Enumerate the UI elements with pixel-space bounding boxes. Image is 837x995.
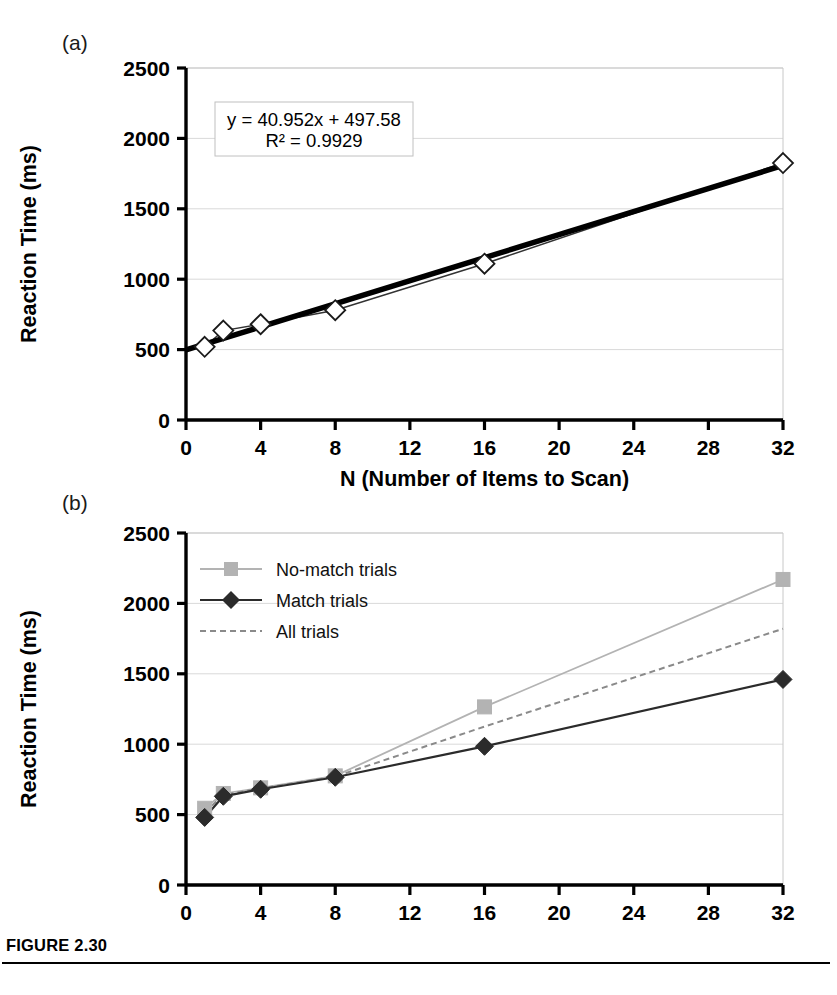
x-tick-label-12: 12: [398, 436, 421, 459]
data-point-marker-no-match: [776, 572, 790, 586]
series-line-match: [205, 679, 783, 817]
r-squared-text: R² = 0.9929: [265, 130, 362, 151]
legend-entry: No-match trials: [200, 560, 397, 580]
x-axis-title: N (Number of Items to Scan): [340, 932, 629, 935]
panel-a-label: (a): [62, 31, 88, 55]
y-axis-title: Reaction Time (ms): [17, 145, 41, 343]
x-tick-label-12: 12: [398, 901, 421, 924]
x-tick-label-4: 4: [255, 901, 267, 924]
figure-container: (a) 05001000150020002500048121620242832N…: [0, 0, 837, 995]
x-tick-label-20: 20: [547, 436, 570, 459]
equation-text: y = 40.952x + 497.58: [227, 109, 401, 130]
legend-label: All trials: [276, 622, 339, 642]
x-tick-label-32: 32: [771, 436, 794, 459]
y-tick-label-0: 0: [158, 874, 170, 897]
panel-b-plot: 05001000150020002500048121620242832N (Nu…: [0, 485, 837, 935]
data-point-marker-no-match: [478, 700, 492, 714]
figure-caption-label: FIGURE 2.30: [6, 936, 107, 955]
figure-caption: FIGURE 2.30: [0, 936, 837, 964]
y-tick-label-500: 500: [135, 803, 170, 826]
legend-label: No-match trials: [276, 560, 397, 580]
x-tick-label-0: 0: [180, 901, 192, 924]
y-tick-label-2000: 2000: [123, 127, 170, 150]
x-tick-label-8: 8: [329, 436, 341, 459]
data-point-marker-match: [774, 670, 792, 688]
y-axis-title: Reaction Time (ms): [17, 610, 41, 808]
x-tick-label-0: 0: [180, 436, 192, 459]
data-point-marker-match: [476, 737, 494, 755]
y-tick-label-2500: 2500: [123, 522, 170, 545]
y-tick-label-1500: 1500: [123, 662, 170, 685]
legend-entry: Match trials: [200, 591, 368, 611]
y-tick-label-0: 0: [158, 409, 170, 432]
legend-entry: All trials: [200, 622, 339, 642]
y-tick-label-1000: 1000: [123, 733, 170, 756]
x-tick-label-28: 28: [697, 436, 721, 459]
chart-panel-a: (a) 05001000150020002500048121620242832N…: [0, 0, 837, 493]
panel-b-label: (b): [62, 491, 88, 515]
legend-marker-diamond-icon: [222, 591, 240, 609]
caption-divider: [2, 962, 830, 964]
x-tick-label-28: 28: [697, 901, 721, 924]
panel-a-plot: 05001000150020002500048121620242832N (Nu…: [0, 0, 837, 493]
x-tick-label-24: 24: [622, 901, 646, 924]
legend-marker-square-icon: [224, 562, 238, 576]
x-tick-label-4: 4: [255, 436, 267, 459]
x-tick-label-16: 16: [473, 436, 496, 459]
chart-panel-b: (b) 05001000150020002500048121620242832N…: [0, 485, 837, 935]
x-tick-label-24: 24: [622, 436, 646, 459]
y-tick-label-2000: 2000: [123, 592, 170, 615]
x-tick-label-32: 32: [771, 901, 794, 924]
x-tick-label-16: 16: [473, 901, 496, 924]
x-tick-label-20: 20: [547, 901, 570, 924]
y-tick-label-500: 500: [135, 338, 170, 361]
y-tick-label-2500: 2500: [123, 57, 170, 80]
x-tick-label-8: 8: [329, 901, 341, 924]
series-line-no-match: [205, 579, 783, 808]
y-tick-label-1500: 1500: [123, 197, 170, 220]
y-tick-label-1000: 1000: [123, 268, 170, 291]
legend-label: Match trials: [276, 591, 368, 611]
